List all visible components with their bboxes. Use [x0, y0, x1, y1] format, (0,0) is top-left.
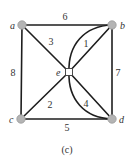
- edge-weight-b-d: 7: [116, 67, 121, 78]
- node-label-a: a: [10, 20, 15, 31]
- node-a: [18, 21, 26, 29]
- node-label-c: c: [9, 114, 14, 125]
- edge-e-b: [69, 25, 112, 72]
- node-c: [17, 115, 25, 123]
- node-d: [108, 115, 116, 123]
- edge-weight-c-e: 2: [48, 99, 53, 110]
- node-e: [66, 69, 73, 76]
- edge-a-c: [21, 25, 22, 119]
- weighted-graph-diagram: a b c d e 6 7 8 5 3 1 2 4 (c): [0, 0, 133, 159]
- edge-e-d: [69, 72, 112, 119]
- node-label-e: e: [56, 67, 61, 78]
- edge-weight-e-d: 4: [84, 98, 89, 109]
- edge-a-e: [22, 25, 69, 72]
- figure-caption: (c): [61, 144, 72, 156]
- node-label-d: d: [119, 114, 125, 125]
- edge-weight-e-b: 1: [84, 38, 89, 49]
- edge-weight-c-d: 5: [65, 122, 70, 133]
- node-label-b: b: [120, 20, 125, 31]
- node-b: [108, 21, 116, 29]
- edge-weight-a-b: 6: [63, 11, 68, 22]
- edge-c-e: [21, 72, 69, 119]
- edge-weight-a-c: 8: [11, 67, 16, 78]
- edge-weight-a-e: 3: [49, 36, 54, 47]
